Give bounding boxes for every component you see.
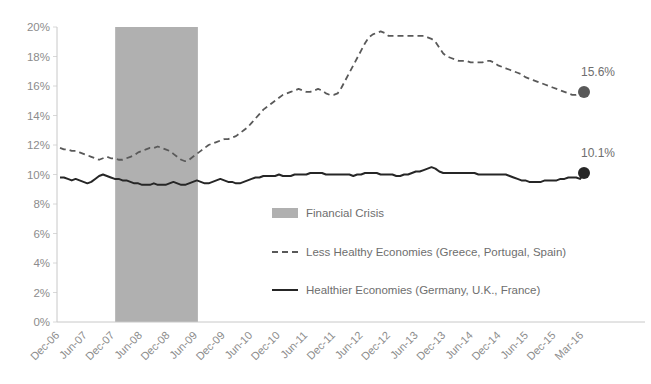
legend-label-healthier: Healthier Economies (Germany, U.K., Fran… (306, 284, 541, 296)
x-axis-tick-label: Dec-13 (414, 329, 448, 363)
y-axis-tick-label: 10% (27, 169, 50, 181)
legend-label-financial-crisis: Financial Crisis (306, 207, 384, 219)
x-axis-tick-label: Dec-07 (83, 329, 117, 363)
x-axis-tick-label: Dec-15 (524, 329, 558, 363)
endpoint-marker-less-healthy (578, 86, 590, 98)
y-axis-tick-label: 20% (27, 21, 50, 33)
y-axis-tick-label: 18% (27, 51, 50, 63)
y-axis-tick-label: 14% (27, 110, 50, 122)
y-axis-tick-label: 16% (27, 80, 50, 92)
y-axis-tick-label: 4% (33, 257, 50, 269)
x-axis-tick-label: Dec-11 (304, 329, 337, 362)
x-axis-tick-label: Dec-12 (359, 329, 393, 363)
line-chart-plot: 0%2%4%6%8%10%12%14%16%18%20% Dec-06Jun-0… (0, 0, 651, 384)
x-axis-tick-label: Dec-10 (248, 329, 282, 363)
x-axis-tick-label: Dec-08 (138, 329, 172, 363)
x-axis-tick-label: Jun-11 (278, 329, 310, 361)
shaded-region-financial-crisis (115, 27, 198, 322)
y-axis-tick-label: 12% (27, 139, 50, 151)
endpoint-label-less-healthy: 15.6% (581, 65, 615, 79)
y-axis-ticks: 0%2%4%6%8%10%12%14%16%18%20% (27, 21, 57, 328)
endpoint-label-healthier: 10.1% (581, 146, 615, 160)
y-axis-tick-label: 2% (33, 287, 50, 299)
x-axis-tick-label: Mar-16 (552, 329, 585, 362)
x-axis-ticks: Dec-06Jun-07Dec-07Jun-08Dec-08Jun-09Dec-… (28, 329, 586, 363)
y-axis-tick-label: 6% (33, 228, 50, 240)
legend-swatch-financial-crisis (272, 208, 298, 218)
x-axis-tick-label: Dec-14 (469, 329, 503, 363)
chart-container: 0%2%4%6%8%10%12%14%16%18%20% Dec-06Jun-0… (0, 0, 651, 384)
x-axis-tick-label: Dec-09 (193, 329, 227, 363)
x-axis-tick-label: Dec-06 (28, 329, 62, 363)
legend: Financial Crisis Less Healthy Economies … (272, 207, 566, 296)
y-axis-tick-label: 0% (33, 316, 50, 328)
endpoint-marker-healthier (578, 167, 590, 179)
legend-label-less-healthy: Less Healthy Economies (Greece, Portugal… (306, 246, 566, 258)
y-axis-tick-label: 8% (33, 198, 50, 210)
